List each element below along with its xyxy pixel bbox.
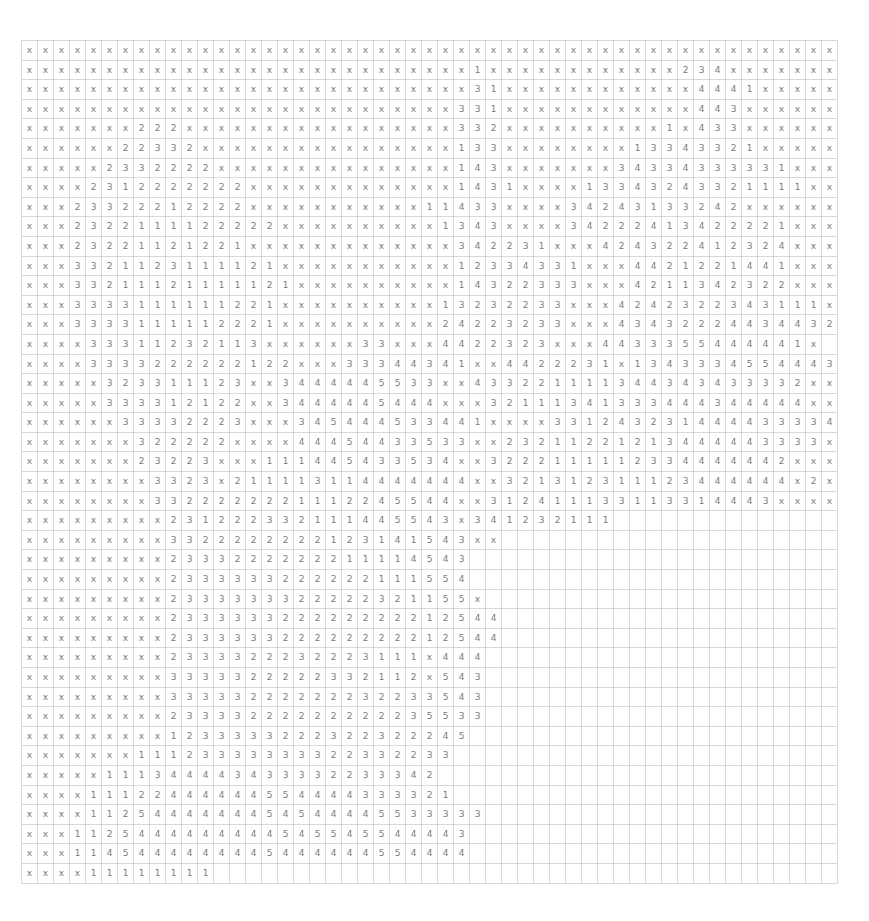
grid-cell: x	[486, 413, 502, 433]
grid-cell: 3	[806, 413, 822, 433]
grid-cell: 4	[438, 531, 454, 551]
grid-cell: x	[326, 257, 342, 277]
grid-cell	[758, 825, 774, 845]
grid-cell: 2	[294, 707, 310, 727]
grid-cell	[774, 550, 790, 570]
grid-cell: x	[246, 237, 262, 257]
grid-cell	[758, 766, 774, 786]
grid-cell: 3	[326, 727, 342, 747]
grid-cell	[534, 844, 550, 864]
grid-cell: x	[614, 100, 630, 120]
grid-cell: 4	[662, 355, 678, 375]
grid-cell: 3	[614, 374, 630, 394]
grid-cell	[422, 864, 438, 884]
grid-cell: x	[406, 315, 422, 335]
grid-cell: 2	[134, 139, 150, 159]
grid-cell: 2	[310, 727, 326, 747]
grid-cell: 3	[758, 159, 774, 179]
grid-cell: x	[70, 727, 86, 747]
grid-cell: 4	[310, 844, 326, 864]
grid-cell: x	[38, 374, 54, 394]
grid-cell: x	[70, 413, 86, 433]
grid-cell: 1	[678, 413, 694, 433]
grid-cell: x	[150, 61, 166, 81]
grid-cell: 1	[598, 511, 614, 531]
grid-cell: x	[102, 511, 118, 531]
grid-cell: 4	[678, 433, 694, 453]
grid-cell	[822, 766, 838, 786]
grid-row: xxx3333111111221xxxxxxxxxx13232233xxx424…	[22, 296, 838, 316]
grid-cell: x	[678, 119, 694, 139]
grid-cell: 4	[806, 355, 822, 375]
grid-cell: x	[294, 355, 310, 375]
grid-row: xxxx11122444444554444333321	[22, 786, 838, 806]
grid-cell: x	[134, 41, 150, 61]
grid-cell: 2	[710, 296, 726, 316]
grid-cell: x	[102, 648, 118, 668]
grid-cell: x	[310, 237, 326, 257]
grid-cell: x	[230, 80, 246, 100]
grid-cell: 3	[198, 688, 214, 708]
grid-cell	[518, 805, 534, 825]
grid-cell: x	[822, 159, 838, 179]
grid-cell: 1	[150, 315, 166, 335]
grid-cell: 1	[134, 237, 150, 257]
grid-cell: 2	[726, 178, 742, 198]
grid-cell: x	[310, 296, 326, 316]
grid-cell: 2	[182, 492, 198, 512]
grid-row: xxxxxxxxxxxxxxxxxxxxxxxxxxx331xxxxxxxxxx…	[22, 100, 838, 120]
grid-cell: x	[518, 413, 534, 433]
grid-cell	[694, 727, 710, 747]
grid-cell	[614, 786, 630, 806]
grid-cell	[502, 570, 518, 590]
grid-cell: 1	[70, 825, 86, 845]
grid-cell: x	[374, 276, 390, 296]
grid-cell: x	[54, 100, 70, 120]
grid-cell: 4	[278, 805, 294, 825]
grid-cell: 4	[358, 433, 374, 453]
grid-cell: 2	[230, 217, 246, 237]
grid-cell	[758, 609, 774, 629]
grid-cell: x	[54, 80, 70, 100]
grid-cell	[806, 590, 822, 610]
grid-cell: 3	[550, 413, 566, 433]
grid-cell: 2	[102, 276, 118, 296]
grid-cell: x	[422, 335, 438, 355]
grid-cell: 4	[742, 413, 758, 433]
grid-cell: 4	[390, 355, 406, 375]
grid-cell: 1	[134, 315, 150, 335]
grid-cell: x	[406, 217, 422, 237]
grid-cell: x	[598, 100, 614, 120]
grid-cell: x	[534, 217, 550, 237]
grid-cell: 2	[262, 707, 278, 727]
grid-cell: x	[598, 119, 614, 139]
grid-cell: 3	[134, 394, 150, 414]
grid-cell: 4	[614, 315, 630, 335]
grid-cell: 2	[246, 550, 262, 570]
grid-cell: x	[86, 531, 102, 551]
grid-cell	[614, 609, 630, 629]
grid-cell: 3	[662, 492, 678, 512]
grid-cell: 2	[502, 296, 518, 316]
grid-cell: 2	[358, 707, 374, 727]
grid-cell: 2	[662, 178, 678, 198]
grid-cell: x	[390, 100, 406, 120]
grid-cell: 4	[742, 257, 758, 277]
grid-cell: 1	[566, 433, 582, 453]
grid-cell	[822, 335, 838, 355]
grid-cell: 3	[438, 433, 454, 453]
grid-cell: x	[342, 315, 358, 335]
grid-cell: 2	[198, 198, 214, 218]
grid-cell: x	[614, 276, 630, 296]
grid-cell: 2	[182, 178, 198, 198]
grid-cell: 3	[486, 257, 502, 277]
grid-cell: 1	[118, 178, 134, 198]
grid-cell	[486, 746, 502, 766]
grid-cell: 3	[214, 590, 230, 610]
grid-cell	[598, 727, 614, 747]
grid-cell	[758, 746, 774, 766]
grid-cell: 4	[294, 374, 310, 394]
grid-cell	[662, 746, 678, 766]
grid-cell: 3	[342, 355, 358, 375]
grid-cell: 4	[230, 786, 246, 806]
